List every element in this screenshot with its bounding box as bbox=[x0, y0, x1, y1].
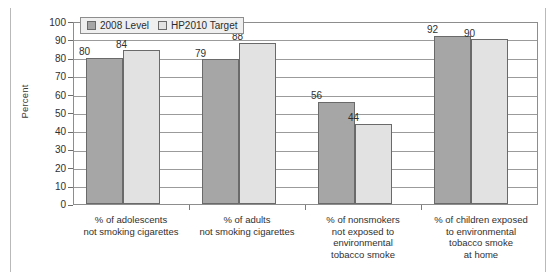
category-separator-2 bbox=[305, 205, 306, 210]
y-tick-mark-0 bbox=[68, 205, 73, 206]
bar-group0-series0[interactable] bbox=[86, 58, 123, 204]
category-label-3-line-0: % of children exposed bbox=[421, 214, 541, 226]
legend-label-2008-level: 2008 Level bbox=[100, 20, 149, 31]
bar-group0-series1[interactable] bbox=[123, 50, 160, 204]
category-label-3-line-2: tobacco smoke bbox=[421, 237, 541, 249]
bar-group3-series0[interactable] bbox=[434, 36, 471, 204]
category-label-3: % of children exposed to environmental t… bbox=[421, 214, 541, 260]
category-label-2: % of nonsmokers not exposed to environme… bbox=[305, 214, 421, 260]
chart-legend: 2008 Level HP2010 Target bbox=[80, 17, 244, 34]
figure-left-rule bbox=[10, 8, 11, 272]
bar-group1-series0[interactable] bbox=[202, 59, 239, 204]
y-tick-label-90: 90 bbox=[38, 36, 66, 46]
y-tick-label-100: 100 bbox=[38, 18, 66, 28]
y-tick-label-0: 0 bbox=[38, 200, 66, 210]
category-label-0-line-0: % of adolescents bbox=[73, 214, 189, 226]
category-label-0-line-1: not smoking cigarettes bbox=[73, 226, 189, 238]
figure-right-rule bbox=[545, 8, 546, 272]
y-tick-label-80: 80 bbox=[38, 54, 66, 64]
bar-group1-series1[interactable] bbox=[239, 43, 276, 204]
y-tick-label-30: 30 bbox=[38, 145, 66, 155]
bar-label-group0-series1: 84 bbox=[103, 39, 140, 50]
category-separator-3 bbox=[421, 205, 422, 210]
legend-item-2008-level[interactable]: 2008 Level bbox=[87, 20, 149, 31]
category-separator-1 bbox=[189, 205, 190, 210]
legend-label-hp2010-target: HP2010 Target bbox=[171, 20, 238, 31]
category-label-3-line-3: at home bbox=[421, 249, 541, 261]
y-tick-label-70: 70 bbox=[38, 72, 66, 82]
category-label-3-line-1: to environmental bbox=[421, 226, 541, 238]
bar-label-group3-series1: 90 bbox=[451, 28, 488, 39]
category-label-2-line-1: not exposed to bbox=[305, 226, 421, 238]
y-axis-title: Percent bbox=[19, 62, 30, 142]
category-label-1-line-0: % of adults bbox=[189, 214, 305, 226]
plot-area bbox=[73, 22, 538, 205]
category-label-2-line-0: % of nonsmokers bbox=[305, 214, 421, 226]
category-label-1: % of adults not smoking cigarettes bbox=[189, 214, 305, 237]
y-tick-label-20: 20 bbox=[38, 164, 66, 174]
legend-swatch-icon-hp2010-target bbox=[158, 21, 167, 30]
y-tick-label-50: 50 bbox=[38, 109, 66, 119]
bar-label-group2-series1: 44 bbox=[335, 112, 372, 123]
category-label-2-line-3: tobacco smoke bbox=[305, 249, 421, 261]
bar-group3-series1[interactable] bbox=[471, 39, 508, 204]
legend-item-hp2010-target[interactable]: HP2010 Target bbox=[158, 20, 238, 31]
chart-figure: Percent 100 90 80 70 60 50 40 30 20 10 0 bbox=[0, 0, 557, 278]
bar-group2-series1[interactable] bbox=[355, 124, 392, 205]
category-label-0: % of adolescents not smoking cigarettes bbox=[73, 214, 189, 237]
bar-label-group0-series0: 80 bbox=[66, 46, 103, 57]
bar-label-group2-series0: 56 bbox=[298, 90, 335, 101]
bar-label-group1-series0: 79 bbox=[182, 48, 219, 59]
category-label-1-line-1: not smoking cigarettes bbox=[189, 226, 305, 238]
category-label-2-line-2: environmental bbox=[305, 237, 421, 249]
y-tick-label-10: 10 bbox=[38, 182, 66, 192]
bar-label-group3-series0: 92 bbox=[414, 24, 451, 35]
legend-swatch-icon-2008-level bbox=[87, 21, 96, 30]
y-tick-label-40: 40 bbox=[38, 127, 66, 137]
y-tick-label-60: 60 bbox=[38, 91, 66, 101]
